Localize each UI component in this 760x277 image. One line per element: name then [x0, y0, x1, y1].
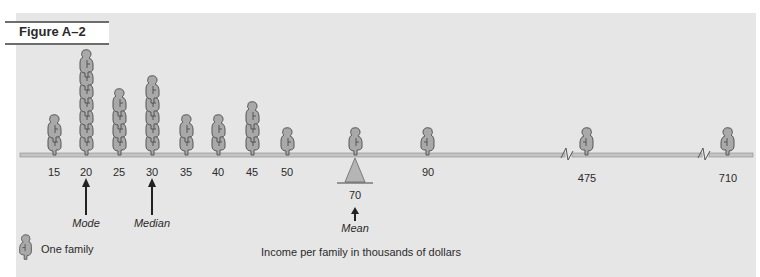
median-label: Median	[134, 217, 170, 229]
tick-label-30: 30	[146, 166, 158, 178]
axis-title: Income per family in thousands of dollar…	[261, 246, 461, 258]
tick-label-40: 40	[212, 166, 224, 178]
family-stacks	[48, 50, 734, 155]
axis-break-icon	[698, 148, 710, 160]
median-arrow-icon	[148, 178, 156, 215]
tick-label-70: 70	[349, 189, 361, 201]
axis-break-icon	[561, 148, 573, 160]
tick-label-710: 710	[719, 172, 737, 184]
tick-label-35: 35	[180, 166, 192, 178]
mode-arrow-icon	[82, 178, 90, 215]
legend-label: One family	[41, 243, 94, 255]
tick-label-475: 475	[578, 172, 596, 184]
income-axis	[20, 148, 753, 160]
tick-label-20: 20	[80, 166, 92, 178]
mode-label: Mode	[72, 217, 100, 229]
tick-label-90: 90	[422, 166, 434, 178]
mean-arrow-icon	[351, 207, 359, 221]
tick-label-15: 15	[48, 166, 60, 178]
legend-family-icon	[20, 235, 32, 260]
pictograph-chart	[0, 0, 760, 277]
tick-label-50: 50	[281, 166, 293, 178]
tick-label-45: 45	[246, 166, 258, 178]
tick-label-25: 25	[113, 166, 125, 178]
mean-fulcrum-icon	[337, 158, 373, 183]
mean-label: Mean	[341, 222, 369, 234]
